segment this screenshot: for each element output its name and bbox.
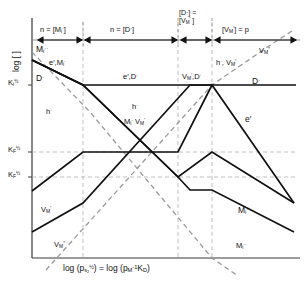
curve-label-Mi-dotdot-top: Mi·· (36, 45, 48, 54)
regime-label-1: n = [Mi·] (40, 26, 66, 34)
curve-label-h-left: h· (46, 108, 52, 116)
curve-label-e-D-center: e′,D· (123, 73, 138, 81)
curve-label-Mi-VM: Mi· VM′ (124, 118, 145, 126)
y-tick-label-Ki: Ki½ (8, 79, 18, 87)
curve-label-D-left: D· (36, 74, 44, 83)
regime-label-3: [D·] =[VM′ ] (179, 9, 196, 25)
y-tick-label-KF: KF½ (8, 171, 20, 179)
curve-label-Mi-bottomright: Mi· (238, 206, 248, 215)
curve-label-e-right: e′ (245, 115, 251, 124)
curve-label-h-VM: h·, VM′ (216, 59, 236, 67)
y-axis-label: log [ ] (12, 51, 21, 72)
curve-label-D-right: D· (252, 77, 260, 86)
curve-label-e-Mi: e′,Mi· (49, 59, 66, 67)
curve-label-VM-D: VM′,D· (182, 73, 201, 81)
curve-label-VM-bottomleft: VM′ (41, 206, 51, 214)
y-tick-label-KF-prime: KF½ (8, 146, 20, 154)
x-axis-label: log (ps2½) = log (pM-1KD) (63, 264, 150, 273)
curve-label-VM-doubleprime-top: VM′′ (259, 47, 270, 55)
curve-label-VM-doubleprime-bottom: VM′′ (54, 241, 65, 249)
curve-label-Mi-dotdot-bottom: Mi·· (236, 242, 247, 250)
regime-label-4: [VM′] = p (222, 26, 249, 34)
curve-label-h-center: h· (132, 103, 138, 111)
regime-label-2: n = [D·] (110, 26, 134, 34)
